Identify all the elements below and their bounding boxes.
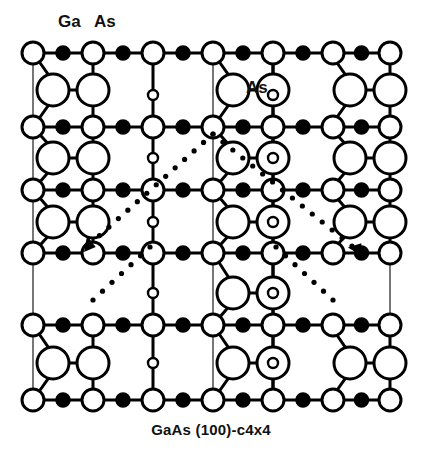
gaas-c4x4-surface-diagram <box>0 0 422 460</box>
ga-atom <box>296 46 310 60</box>
dotted-left-leg <box>191 148 196 153</box>
as-surface-atom <box>379 179 401 201</box>
as-dimer-atom <box>37 347 69 379</box>
ga-atom <box>116 46 130 60</box>
as-subsurface-atom <box>148 288 158 298</box>
dotted-right-leg <box>240 155 245 160</box>
as-surface-atom <box>262 116 284 138</box>
dotted-left-leg <box>201 140 206 145</box>
as-dimer-atom <box>37 142 69 174</box>
as-surface-atom <box>262 314 284 336</box>
as-surface-atom <box>82 42 104 64</box>
as-dimer-atom <box>334 74 366 106</box>
ga-atom <box>236 120 250 134</box>
ga-atom <box>176 183 190 197</box>
as-dimer-atom <box>217 206 249 238</box>
as-surface-atom <box>142 314 164 336</box>
figure-root: Ga As As GaAs (100)-c4x4 <box>0 0 422 460</box>
as-surface-atom <box>322 42 344 64</box>
as-subsurface-atom <box>268 358 278 368</box>
dotted-left-tail <box>138 253 143 258</box>
as-surface-atom <box>22 42 44 64</box>
dotted-left-leg <box>173 165 178 170</box>
dotted-right-leg <box>210 131 215 136</box>
dotted-right-leg <box>230 147 235 152</box>
as-surface-atom <box>142 242 164 264</box>
ga-atom <box>116 120 130 134</box>
ga-atom <box>176 318 190 332</box>
ga-atom <box>176 120 190 134</box>
ga-atom <box>176 246 190 260</box>
as-surface-atom <box>22 314 44 336</box>
ga-atom <box>116 393 130 407</box>
as-dimer-atom <box>374 74 406 106</box>
as-subsurface-atom <box>268 90 278 100</box>
as-surface-atom <box>142 42 164 64</box>
ga-atom <box>355 318 369 332</box>
dotted-left-tail <box>128 262 133 267</box>
ga-atom <box>296 120 310 134</box>
ga-atom <box>296 318 310 332</box>
dotted-right-tail <box>311 280 316 285</box>
dotted-left-leg <box>97 233 102 238</box>
dotted-left-leg <box>182 157 187 162</box>
dotted-right-leg <box>330 227 335 232</box>
as-surface-atom <box>262 242 284 264</box>
as-dimer-atom <box>217 347 249 379</box>
ga-atom <box>116 183 130 197</box>
dotted-left-tail <box>90 297 95 302</box>
dotted-right-leg <box>280 187 285 192</box>
as-surface-atom <box>202 314 224 336</box>
dotted-right-tail <box>321 289 326 294</box>
figure-caption: GaAs (100)-c4x4 <box>0 421 422 438</box>
dotted-right-leg <box>250 163 255 168</box>
as-dimer-atom <box>374 142 406 174</box>
dotted-right-tail <box>273 244 278 249</box>
as-surface-atom <box>82 179 104 201</box>
dotted-right-leg <box>320 219 325 224</box>
dotted-left-tail <box>100 289 105 294</box>
dotted-left-leg <box>163 174 168 179</box>
as-surface-atom <box>379 42 401 64</box>
as-subsurface-atom <box>148 153 158 163</box>
as-surface-atom <box>202 389 224 411</box>
dotted-left-leg <box>116 216 121 221</box>
dotted-right-tail <box>292 262 297 267</box>
as-surface-atom <box>142 389 164 411</box>
as-surface-atom <box>322 179 344 201</box>
dotted-left-tail <box>119 271 124 276</box>
as-dimer-atom <box>37 206 69 238</box>
as-surface-atom <box>379 314 401 336</box>
as-dimer-atom <box>334 206 366 238</box>
dotted-left-leg <box>135 199 140 204</box>
as-surface-atom <box>262 42 284 64</box>
as-dimer-atom <box>77 347 109 379</box>
ga-atom <box>56 183 70 197</box>
as-dimer-atom <box>77 74 109 106</box>
ga-atom <box>236 246 250 260</box>
as-surface-atom <box>82 389 104 411</box>
as-subsurface-atom <box>268 288 278 298</box>
as-subsurface-atom <box>268 153 278 163</box>
as-surface-atom <box>262 389 284 411</box>
ga-atom <box>355 393 369 407</box>
as-surface-atom <box>379 116 401 138</box>
ga-atom <box>296 183 310 197</box>
dotted-left-leg <box>125 208 130 213</box>
ga-atom <box>236 393 250 407</box>
as-dimer-atom <box>77 206 109 238</box>
as-surface-atom <box>142 179 164 201</box>
as-surface-atom <box>322 242 344 264</box>
as-dimer-atom <box>374 347 406 379</box>
as-dimer-atom <box>217 74 249 106</box>
ga-atom <box>56 318 70 332</box>
dotted-right-tail <box>302 271 307 276</box>
as-surface-atom <box>22 116 44 138</box>
ga-atom <box>355 183 369 197</box>
dotted-left-tail <box>109 280 114 285</box>
as-surface-atom <box>202 42 224 64</box>
as-surface-atom <box>379 242 401 264</box>
as-surface-atom <box>202 242 224 264</box>
ga-atom <box>355 120 369 134</box>
as-subsurface-atom <box>268 217 278 227</box>
